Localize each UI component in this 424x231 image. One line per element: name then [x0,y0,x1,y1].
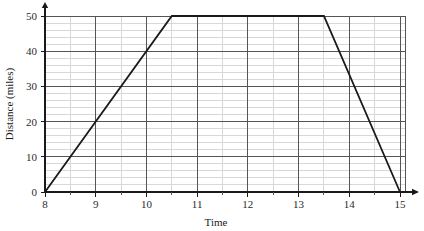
canvas-background [0,0,424,231]
y-tick-label: 10 [26,151,38,163]
x-tick-label: 12 [242,198,253,210]
x-tick-label: 8 [42,198,48,210]
y-tick-label: 40 [26,45,38,57]
y-tick-label: 30 [26,80,38,92]
x-tick-label: 11 [192,198,203,210]
x-tick-label: 14 [344,198,356,210]
distance-time-graph: 89101112131415 01020304050 Time Distance… [0,0,424,231]
x-tick-label: 13 [293,198,305,210]
x-tick-label: 9 [93,198,99,210]
y-tick-label: 0 [32,186,38,198]
y-tick-label: 20 [26,116,38,128]
y-axis-title: Distance (miles) [3,67,16,140]
y-tick-label: 50 [26,10,38,22]
chart-screenshot: 89101112131415 01020304050 Time Distance… [0,0,424,231]
x-axis-title: Time [205,216,228,228]
x-tick-label: 15 [395,198,407,210]
x-tick-label: 10 [141,198,153,210]
